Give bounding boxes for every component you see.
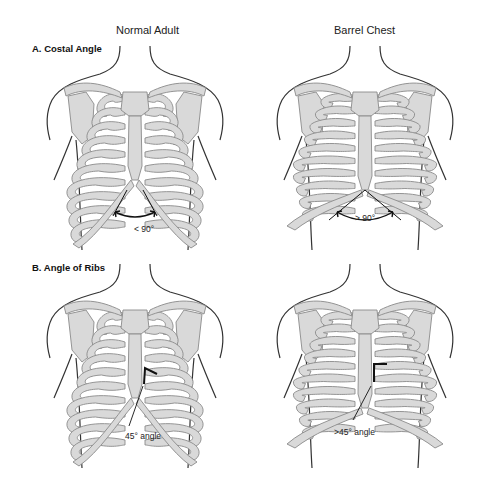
column-title-normal-adult: Normal Adult: [116, 24, 179, 36]
costal-angle-label-barrel: > 90°: [355, 213, 375, 223]
panel-costal-barrel: [250, 40, 480, 260]
panel-ribs-barrel: [250, 258, 480, 478]
panel-ribs-normal: [20, 258, 250, 478]
rib-angle-label-normal: 45° angle: [125, 431, 161, 441]
rib-angle-label-barrel: >45° angle: [334, 427, 375, 437]
column-title-barrel-chest: Barrel Chest: [334, 24, 395, 36]
costal-angle-label-normal: < 90°: [134, 224, 154, 234]
